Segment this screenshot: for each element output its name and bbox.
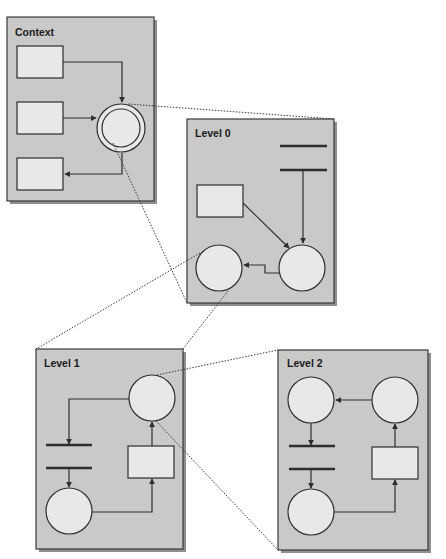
level2-external-entity [372,447,418,479]
zoom-link-level0-level1-top [36,253,200,349]
panel-level2: Level 2 [278,350,431,553]
zoom-link-context-level0-top [128,104,334,119]
level1-process-bottom [46,488,92,534]
panel-context: Context [7,17,157,204]
panel-context-title: Context [15,26,55,38]
panel-level1: Level 1 [36,349,186,552]
panel-level0-title: Level 0 [195,127,231,139]
context-process-circle [102,109,140,147]
level2-process-bottom [288,489,334,535]
level0-external-entity [197,185,243,217]
panel-level1-title: Level 1 [44,357,80,369]
context-external-entity-2 [17,102,63,134]
panel-level2-title: Level 2 [287,357,323,369]
panel-level0: Level 0 [187,119,337,306]
level0-process-left [196,245,242,291]
level2-process-top-left [288,377,334,423]
level2-process-top-right [372,377,418,423]
context-external-entity-1 [17,46,63,78]
level0-process-right [279,245,325,291]
context-external-entity-3 [17,158,63,190]
level1-external-entity [128,446,174,478]
level1-process-top [129,375,175,421]
diagram-canvas: Context Level 0 Level 1 [0,0,446,559]
